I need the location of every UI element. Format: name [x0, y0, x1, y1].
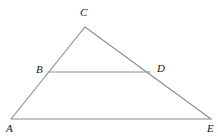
geometry-figure: A B C D E	[0, 0, 218, 138]
triangle-diagram-svg	[0, 0, 218, 138]
vertex-label-C: C	[80, 7, 87, 18]
vertex-label-E: E	[207, 123, 214, 134]
vertex-label-D: D	[157, 63, 165, 74]
vertex-label-B: B	[36, 64, 43, 75]
vertex-label-A: A	[6, 123, 13, 134]
